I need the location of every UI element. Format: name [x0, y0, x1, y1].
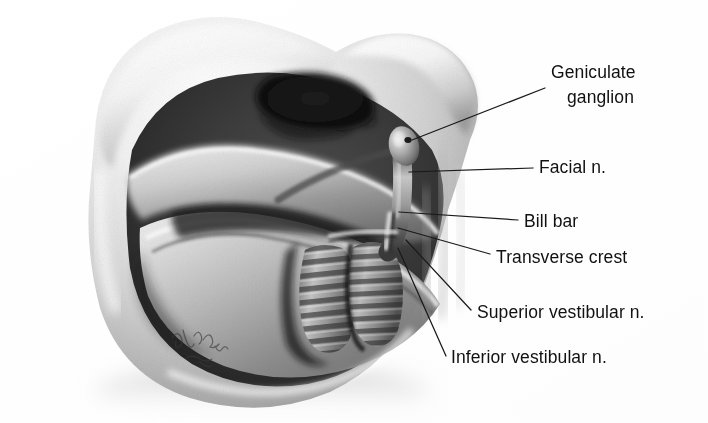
label-geniculate-ganglion: Geniculate ganglion [551, 60, 636, 110]
label-inferior-vestibular-nerve: Inferior vestibular n. [451, 346, 607, 368]
label-facial-nerve: Facial n. [539, 156, 606, 178]
label-transverse-crest: Transverse crest [496, 246, 627, 268]
label-geniculate-ganglion-line1: Geniculate [551, 62, 636, 82]
label-superior-vestibular-nerve: Superior vestibular n. [477, 301, 645, 323]
label-bill-bar: Bill bar [524, 210, 578, 232]
label-geniculate-ganglion-line2: ganglion [551, 85, 636, 110]
